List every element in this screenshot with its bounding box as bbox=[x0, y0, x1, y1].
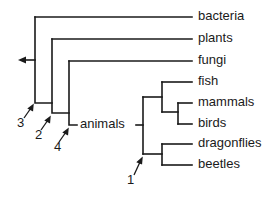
marker-3-label: 3 bbox=[17, 116, 24, 130]
marker-1-arrow-head-icon bbox=[138, 158, 143, 164]
leaf-label-beetles: beetles bbox=[198, 157, 240, 171]
marker-2-label: 2 bbox=[35, 128, 42, 142]
node-3-stem bbox=[35, 17, 52, 103]
leaf-label-bacteria: bacteria bbox=[198, 9, 244, 23]
root-arrow-icon bbox=[18, 57, 26, 64]
node-label-animals: animals bbox=[80, 117, 125, 131]
leaf-label-fish: fish bbox=[198, 74, 218, 88]
marker-1-arrow bbox=[134, 162, 140, 175]
leaf-label-plants: plants bbox=[198, 31, 233, 45]
leaf-label-fungi: fungi bbox=[198, 53, 226, 67]
marker-1-label: 1 bbox=[127, 173, 134, 187]
node-2-stem bbox=[52, 39, 69, 113]
node-4-stem bbox=[69, 61, 77, 125]
leaf-label-dragonflies: dragonflies bbox=[198, 136, 262, 150]
leaf-label-birds: birds bbox=[198, 116, 226, 130]
marker-4-label: 4 bbox=[54, 140, 61, 154]
leaf-label-mammals: mammals bbox=[198, 95, 254, 109]
